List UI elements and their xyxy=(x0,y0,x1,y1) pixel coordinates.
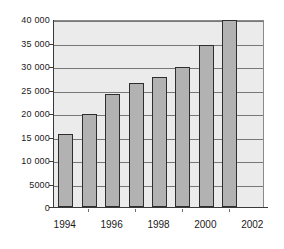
x-axis-tick-labels: 19941996199820002002 xyxy=(0,0,284,249)
x-tick-label: 1996 xyxy=(92,219,132,230)
x-tick-label: 2000 xyxy=(185,219,225,230)
x-tick-label: 1994 xyxy=(45,219,85,230)
x-tick-mark-minor xyxy=(229,209,230,212)
x-tick-mark-minor xyxy=(182,209,183,212)
x-tick-mark-minor xyxy=(135,209,136,212)
x-tick-mark-minor xyxy=(88,209,89,212)
x-tick-label: 1998 xyxy=(139,219,179,230)
bar-chart-figure: 0500010 00015 00020 00025 00030 00035 00… xyxy=(0,0,284,249)
x-tick-label: 2002 xyxy=(232,219,272,230)
